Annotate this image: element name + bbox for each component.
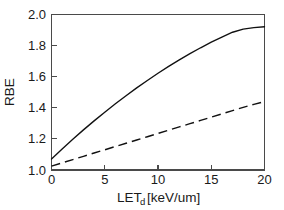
x-axis-title-subscript: d [140,196,145,207]
rbe-vs-let-line-chart: 1.0 1.2 1.4 1.6 1.8 2.0 0 5 10 15 20 RBE… [0,0,284,210]
x-tick-label: 10 [151,172,165,187]
x-tick-label: 0 [48,172,55,187]
x-axis-title-units: [keV/um] [147,190,200,205]
y-tick-label: 2.0 [28,7,46,22]
y-tick-label: 1.0 [28,163,46,178]
chart-figure: 1.0 1.2 1.4 1.6 1.8 2.0 0 5 10 15 20 RBE… [0,0,284,210]
y-tick-label: 1.6 [28,69,46,84]
x-tick-label: 20 [257,172,271,187]
y-tick-label: 1.2 [28,131,46,146]
x-axis-title-main: LET [117,190,142,205]
y-tick-label: 1.4 [28,100,46,115]
y-tick-label: 1.8 [28,38,46,53]
x-tick-label: 5 [101,172,108,187]
x-tick-label: 15 [204,172,218,187]
x-axis-title: LET d [keV/um] [117,190,200,207]
y-axis-title: RBE [2,78,17,106]
